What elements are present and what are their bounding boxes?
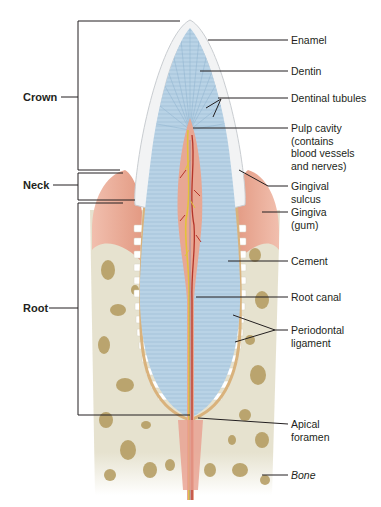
label-apical-foramen: Apical foramen — [291, 418, 330, 443]
label-pulp-cavity: Pulp cavity (contains blood vessels and … — [291, 122, 355, 172]
label-bone: Bone — [291, 469, 316, 482]
label-periodontal-ligament: Periodontal ligament — [291, 324, 344, 349]
label-crown: Crown — [23, 91, 57, 104]
label-cement: Cement — [291, 255, 328, 268]
label-dentin: Dentin — [291, 65, 321, 78]
label-gingiva: Gingiva (gum) — [291, 206, 327, 231]
label-root-canal: Root canal — [291, 291, 341, 304]
label-gingival-sulcus: Gingival sulcus — [291, 180, 329, 205]
label-dentinal-tubules: Dentinal tubules — [291, 92, 366, 105]
label-neck: Neck — [23, 179, 49, 192]
label-root: Root — [23, 302, 48, 315]
label-enamel: Enamel — [291, 34, 327, 47]
